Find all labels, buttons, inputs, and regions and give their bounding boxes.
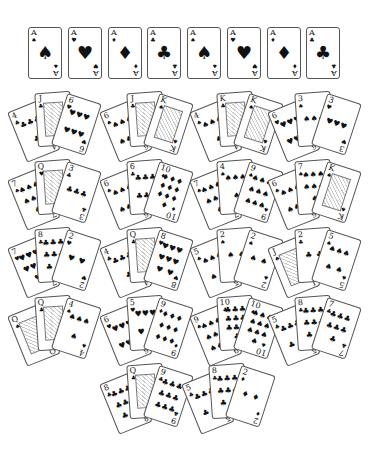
card-index: A♣ xyxy=(150,29,156,43)
card-index: A♥ xyxy=(71,29,77,43)
card-index: A♠ xyxy=(31,29,37,43)
spade-icon: ♠ xyxy=(188,42,220,64)
card-index: A♠ xyxy=(53,63,59,77)
card-hand: 7♠♠♠♠♠♠♠♠7♠Q♥Q♥3♣♣♣♣3♣ xyxy=(8,156,98,226)
suit-icon: ♣ xyxy=(340,342,347,349)
suit-icon: ♠ xyxy=(69,332,78,342)
card-index: A♦ xyxy=(111,29,117,43)
suit-icon: ♦ xyxy=(168,204,180,213)
ace-card[interactable]: A♦♦A♦ xyxy=(108,27,142,79)
suit-icon: ♦ xyxy=(171,326,180,336)
card-index: A♥ xyxy=(252,63,258,77)
rank-label: A xyxy=(172,69,178,78)
suit-icon: ♥ xyxy=(80,274,87,281)
suit-icon: ♦ xyxy=(254,410,261,417)
card-hand: 6♠♠♠♠♠♠♠6♠J♣J♣K♠K♠ xyxy=(100,88,190,158)
suit-icon: ♣ xyxy=(171,394,180,404)
suit-icon: ♦ xyxy=(292,63,298,69)
card-index: A♥ xyxy=(230,29,236,43)
suit-icon: ♥ xyxy=(80,138,87,145)
ace-row: A♠♠A♠A♥♥A♥A♦♦A♦A♣♣A♣A♠♠A♠A♥♥A♥A♦♦A♦A♣♣A♣ xyxy=(0,0,374,90)
suit-icon: ♥ xyxy=(81,113,90,123)
club-icon: ♣ xyxy=(307,42,339,64)
card-index: A♠ xyxy=(212,63,218,77)
diamond-icon: ♦ xyxy=(109,42,141,64)
suit-icon: ♦ xyxy=(251,393,260,403)
suit-icon: ♠ xyxy=(227,251,235,259)
suit-icon: ♠ xyxy=(340,274,347,281)
suit-icon: ♠ xyxy=(80,342,87,349)
suit-icon: ♣ xyxy=(201,408,211,418)
suit-icon: ♣ xyxy=(331,63,337,69)
suit-icon: ♣ xyxy=(46,263,54,271)
card-index: A♠ xyxy=(190,29,196,43)
suit-icon: ♠ xyxy=(172,138,180,146)
suit-icon: ♠ xyxy=(209,272,219,282)
suit-icon: ♥ xyxy=(174,246,183,256)
suit-icon: ♣ xyxy=(339,326,348,336)
heart-icon: ♥ xyxy=(228,42,260,64)
card-pips xyxy=(154,105,184,144)
suit-icon: ♥ xyxy=(172,274,179,281)
card-index: A♦ xyxy=(133,63,139,77)
card-hand: 6♥♥♥♥♥♥♥6♥3♠♠♠♠3♠3♥♥♥♥3♥ xyxy=(268,88,358,158)
card-hand: 5♣♣♣♣♣♣5♣8♣♣♣♣♣♣♣♣♣8♣2♦♦♦2♦ xyxy=(182,360,272,430)
suit-icon: ♣ xyxy=(342,314,351,324)
ace-card[interactable]: A♠♠A♠ xyxy=(187,27,221,79)
ace-card[interactable]: A♣♣A♣ xyxy=(306,27,340,79)
suit-icon: ♠ xyxy=(248,254,257,264)
suit-icon: ♥ xyxy=(252,63,258,69)
card-hand: 7♠♠♠♠♠♠♠♠7♠4♠♠♠♠♠4♠9♠♠♠♠♠♠♠♠♠♠9♠ xyxy=(190,156,280,226)
ace-card[interactable]: A♥♥A♥ xyxy=(68,27,102,79)
suit-icon: ♣ xyxy=(306,331,314,339)
suit-icon: ♥ xyxy=(66,254,75,264)
suit-icon: ♦ xyxy=(169,194,178,204)
ace-card[interactable]: A♣♣A♣ xyxy=(147,27,181,79)
ace-card[interactable]: A♦♦A♦ xyxy=(267,27,301,79)
rank-label: A xyxy=(252,69,258,78)
suit-icon: ♦ xyxy=(174,314,183,324)
card-index: A♦ xyxy=(270,29,276,43)
suit-icon: ♠ xyxy=(259,257,268,267)
ace-card[interactable]: A♠♠A♠ xyxy=(28,27,62,79)
suit-icon: ♦ xyxy=(240,390,249,400)
ace-card[interactable]: A♥♥A♥ xyxy=(227,27,261,79)
rank-label: A xyxy=(53,69,59,78)
card-index: A♥ xyxy=(93,63,99,77)
suit-icon: ♣ xyxy=(305,251,313,259)
card-index: A♣ xyxy=(309,29,315,43)
rank-label: A xyxy=(133,69,139,78)
suit-icon: ♣ xyxy=(79,190,88,200)
club-icon: ♣ xyxy=(148,42,180,64)
spade-icon: ♠ xyxy=(29,42,61,64)
rank-label: A xyxy=(331,69,337,78)
suit-icon: ♣ xyxy=(172,63,178,69)
suit-icon: ♥ xyxy=(137,328,145,336)
suit-icon: ♥ xyxy=(155,265,164,275)
card-hand: 6♠♠♠♠♠♠♠6♠7♠♠♠♠♠♠♠♠7♠K♠K♠ xyxy=(268,156,358,226)
suit-icon: ♣ xyxy=(220,399,228,407)
suit-icon: ♣ xyxy=(328,335,337,345)
diamond-icon: ♦ xyxy=(268,42,300,64)
suit-icon: ♠ xyxy=(324,262,333,272)
suit-icon: ♥ xyxy=(339,122,348,132)
card-pips xyxy=(322,173,352,212)
card-hand: 9♠♠♠♠♠♠♠♠♠♠9♠10♣♣♣♣♣♣♣♣♣♣♣10♣10♠♠♠♠♠♠♠♠♠… xyxy=(190,292,280,362)
card-hand: 4♠♠♠♠♠4♠K♣K♣K♠K♠ xyxy=(190,88,280,158)
suit-icon: ♠ xyxy=(53,63,59,69)
card-hand: 5♠♠♠♠♠♠5♠2♠♠♠2♠2♠♠♠2♠ xyxy=(190,224,280,294)
suit-icon: ♣ xyxy=(287,340,297,350)
card-index: A♣ xyxy=(331,63,337,77)
suit-icon: ♣ xyxy=(80,206,87,213)
rank-label: A xyxy=(93,69,99,78)
card-hand: 4♣♣♣♣♣4♣J♣J♣6♥♥♥♥♥♥♥6♥ xyxy=(8,88,98,158)
suit-icon: ♥ xyxy=(93,63,99,69)
card-hand: J♠J♠2♣♣♣2♣5♠♠♠♠♠♠5♠ xyxy=(268,224,358,294)
suit-icon: ♥ xyxy=(340,138,347,145)
card-index: A♦ xyxy=(292,63,298,77)
suit-icon: ♦ xyxy=(133,63,139,69)
suit-icon: ♥ xyxy=(171,258,180,268)
card-hand: 6♠♠♠♠♠♠♠6♠6♣♣♣♣♣♣♣6♣10♦♦♦♦♦♦♦♦♦♦♦10♦ xyxy=(100,156,190,226)
heart-icon: ♥ xyxy=(69,42,101,64)
suit-icon: ♠ xyxy=(212,63,218,69)
